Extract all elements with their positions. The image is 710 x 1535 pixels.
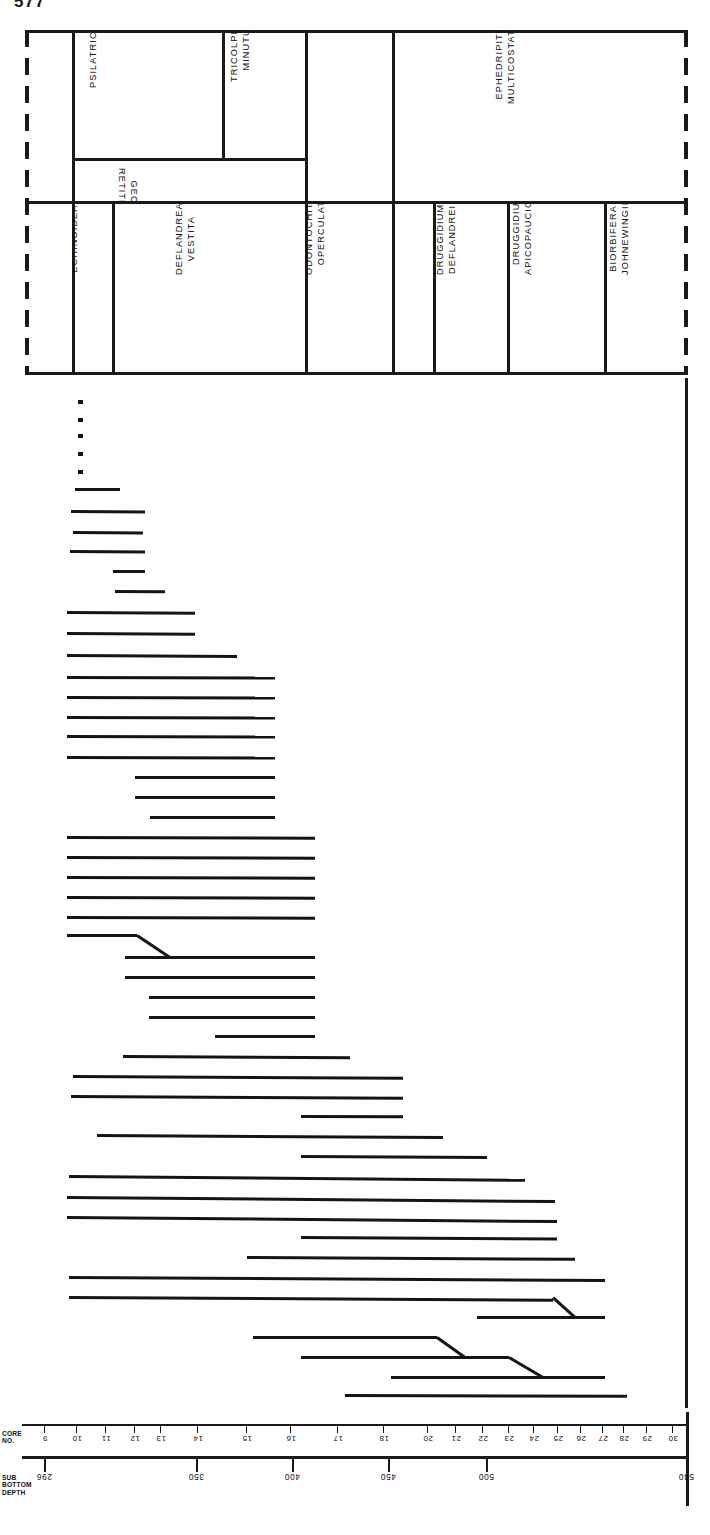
core-number-label: 30 [665,1434,681,1443]
range-occurrence-dot [78,400,83,404]
range-bar [247,1256,575,1261]
range-bar [135,776,275,779]
range-bar [67,836,315,840]
range-bar [135,796,275,799]
depth-tick [292,1458,294,1472]
core-tick [44,1424,45,1433]
header-bottom-rule [25,372,688,375]
core-number-label: 24 [526,1434,542,1443]
depth-value-label: 296 [31,1472,57,1482]
taxon-label-psilatricolporites: PSILATRICOLPORITES [87,30,99,88]
range-bar [67,611,195,615]
range-bar [67,756,275,760]
core-tick [557,1424,558,1433]
taxon-cell-druggidium-deflandrei[interactable]: DRUGGIDIUMDEFLANDREI [433,201,507,372]
range-bar [67,676,275,680]
core-tick [623,1424,624,1433]
core-axis-line [22,1424,688,1426]
range-bar [67,1216,557,1223]
taxon-label-druggidium-apicopaucicum: DRUGGIDIUMAPICOPAUCICUM [510,201,534,275]
taxon-cell-tricolpites-minutus[interactable]: TRICOLPITESMINUTUS [222,30,305,158]
range-bar [301,1356,509,1359]
depth-tick [686,1458,688,1472]
taxon-cell-psilatricolporites[interactable]: PSILATRICOLPORITES [72,30,222,158]
plot-right-axis-line [685,378,688,1408]
depth-value-label: 350 [183,1472,209,1482]
taxon-label-retitricolpites-georgensis: GEORGENSISRETITRICOLPITES [116,168,140,202]
core-tick [134,1424,135,1433]
taxon-label-deflandrea-vestita: DEFLANDREAVESTITA [172,202,196,275]
range-bar [97,1134,443,1139]
core-axis-title: CORE NO. [2,1430,22,1445]
taxon-label-biorbifera-johnewingii: BIORBIFERAJOHNEWINGII [607,201,631,274]
range-bar [71,510,145,514]
range-bar [301,1236,557,1241]
range-bar [69,1276,605,1282]
taxon-cell-deflandrea-vestita[interactable]: DEFLANDREAVESTITA [112,201,305,372]
taxon-cell-retitricolpites-georgensis[interactable]: GEORGENSISRETITRICOLPITES [72,158,305,201]
core-number-label: 21 [448,1434,464,1443]
range-bar [70,550,145,554]
core-tick [646,1424,647,1433]
core-tick [197,1424,198,1433]
range-bar [67,696,275,700]
core-tick [427,1424,428,1433]
core-number-label: 12 [127,1434,143,1443]
core-tick [337,1424,338,1433]
core-tick [383,1424,384,1433]
range-bar [477,1316,605,1319]
taxon-label-deflandrea-echinoidea: DEFLANDREAECHINOIDEA [72,202,80,275]
range-bar [150,816,275,819]
depth-value-label: 400 [279,1472,305,1482]
taxon-cell-druggidium-apicopaucicum[interactable]: DRUGGIDIUMAPICOPAUCICUM [507,201,604,372]
taxon-cell-ephedripites-multicostatus[interactable]: EPHEDRIPITESMULTICOSTATUS [392,30,684,201]
range-bar [113,570,145,573]
range-bar [69,1175,525,1182]
range-bar [71,1095,403,1100]
core-tick [290,1424,291,1433]
range-occurrence-dot [78,470,83,474]
core-tick [455,1424,456,1433]
taxon-cell-complexiopollis[interactable]: COMPLEXIOPOLLIS [25,30,72,201]
taxon-cell-deflandrea-echinoidea[interactable]: DEFLANDREAECHINOIDEA [72,201,112,372]
range-bar [149,996,315,999]
range-bar [253,1336,437,1339]
core-number-label: 9 [37,1434,53,1443]
core-number-label: 29 [639,1434,655,1443]
core-number-label: 17 [330,1434,346,1443]
range-bar [345,1394,627,1398]
range-bar [67,856,315,860]
page-number: 577 [14,0,45,12]
core-number-label: 26 [573,1434,589,1443]
depth-axis-line [22,1456,688,1459]
range-bar [125,956,315,959]
depth-axis: CORE NO. SUB BOTTOM DEPTH 91011121314151… [0,1412,710,1535]
core-number-label: 13 [153,1434,169,1443]
core-number-label: 11 [98,1434,114,1443]
taxon-cell-clavatipollenites[interactable]: CLAVATIPOLLENITES [305,30,392,201]
range-bar [67,735,275,739]
range-bar [67,716,275,720]
range-bar [125,976,315,979]
range-bar [391,1376,605,1379]
core-tick [246,1424,247,1433]
core-tick [160,1424,161,1433]
core-number-label: 20 [420,1434,436,1443]
core-number-label: 28 [616,1434,632,1443]
taxon-label-odontochitina-operculata: ODONTOCHITINAOPERCULATA [305,201,327,275]
core-tick [533,1424,534,1433]
taxon-cell-trithyrodinium-suspectum[interactable]: TRITHYRODINIUMSUSPECTUM [25,201,72,372]
core-number-label: 14 [190,1434,206,1443]
depth-tick [486,1458,488,1472]
range-chart-plot-area [25,378,688,1408]
range-occurrence-dot [78,434,83,438]
taxon-header-table: COMPLEXIOPOLLIS PSILATRICOLPORITES TRICO… [25,30,688,375]
taxon-label-druggidium-deflandrei: DRUGGIDIUMDEFLANDREI [434,203,458,274]
core-tick [602,1424,603,1433]
taxon-cell-odontochitina-operculata[interactable]: ODONTOCHITINAOPERCULATA [305,201,392,372]
taxon-label-tricolpites-minutus: TRICOLPITESMINUTUS [227,30,251,82]
taxon-cell-druggidium-rhabdoreticulatum[interactable]: DRUGGIDIUMRHABDORETICULATUM [392,201,433,372]
core-number-label: 25 [550,1434,566,1443]
taxon-cell-biorbifera-johnewingii[interactable]: BIORBIFERAJOHNEWINGII [604,201,684,372]
range-bar [67,934,137,937]
